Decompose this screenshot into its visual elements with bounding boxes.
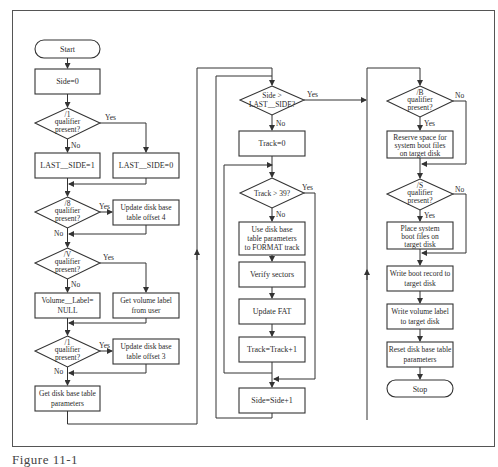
side-zero-box: Side=0 (35, 69, 100, 94)
svg-text:Get volume label: Get volume label (120, 296, 172, 305)
no-label: No (71, 141, 80, 150)
svg-text:No: No (276, 210, 285, 219)
svg-text:present?: present? (408, 196, 434, 205)
svg-text:Update disk base: Update disk base (120, 342, 172, 351)
svg-text:Update FAT: Update FAT (253, 307, 292, 316)
track-zero-box: Track=0 (239, 131, 305, 156)
last-side-1-box: LAST__SIDE=1 (35, 153, 100, 178)
svg-text:No: No (276, 119, 285, 128)
svg-text:Start: Start (60, 45, 76, 54)
svg-text:present?: present? (55, 125, 81, 134)
reset-disk-base-box: Reset disk base table parameters (387, 342, 453, 367)
get-disk-base-params-box: Get disk base table parameters (35, 386, 100, 411)
svg-text:Verify sectors: Verify sectors (250, 270, 294, 279)
svg-text:parameters: parameters (404, 355, 437, 364)
svg-text:Volume__Label=: Volume__Label= (42, 296, 94, 305)
svg-text:Yes: Yes (99, 341, 110, 350)
svg-text:Yes: Yes (99, 202, 110, 211)
svg-text:Write boot record to: Write boot record to (390, 269, 451, 278)
svg-text:Yes: Yes (424, 119, 435, 128)
svg-text:Track > 39?: Track > 39? (254, 189, 291, 198)
svg-text:Side=Side+1: Side=Side+1 (251, 396, 292, 405)
svg-text:Write volume label: Write volume label (391, 307, 449, 316)
svg-text:Yes: Yes (103, 253, 114, 262)
svg-text:Use disk base: Use disk base (251, 225, 293, 234)
side-increment-box: Side=Side+1 (239, 388, 305, 413)
svg-text:present?: present? (408, 103, 434, 112)
svg-text:Update disk base: Update disk base (120, 203, 172, 212)
reserve-space-box: Reserve space for system boot files on t… (387, 131, 453, 158)
svg-text:parameters: parameters (51, 399, 84, 408)
svg-text:to FORMAT track: to FORMAT track (245, 243, 300, 252)
decision-track-gt-39: Track > 39? (240, 178, 304, 208)
decision-qualifier-s: /S qualifier present? (387, 179, 453, 210)
svg-text:LAST__SIDE?: LAST__SIDE? (249, 100, 296, 109)
stop-terminal: Stop (387, 380, 453, 397)
decision-qualifier-b: /B qualifier present? (387, 86, 453, 117)
decision-qualifier-1-second: /1 qualifier present? (35, 336, 100, 367)
svg-text:No: No (455, 185, 464, 194)
svg-text:LAST__SIDE=0: LAST__SIDE=0 (119, 161, 173, 170)
svg-text:No: No (455, 91, 464, 100)
figure-caption: Figure 11-1 (12, 452, 78, 467)
write-boot-record-box: Write boot record to target disk (387, 266, 453, 291)
use-disk-base-format-box: Use disk base table parameters to FORMAT… (239, 222, 305, 255)
svg-text:on target disk: on target disk (400, 149, 441, 158)
svg-text:table offset 4: table offset 4 (126, 213, 165, 222)
svg-text:LAST__SIDE=1: LAST__SIDE=1 (40, 161, 94, 170)
svg-text:Get disk base table: Get disk base table (39, 389, 97, 398)
decision-qualifier-1: /1 qualifier present? (35, 108, 100, 139)
svg-text:Track=0: Track=0 (259, 139, 286, 148)
svg-text:present?: present? (55, 353, 81, 362)
verify-sectors-box: Verify sectors (239, 262, 305, 287)
svg-text:Track=Track+1: Track=Track+1 (247, 345, 297, 354)
decision-side-gt-last-side: Side > LAST__SIDE? (240, 86, 304, 115)
volume-label-null-box: Volume__Label= NULL (35, 293, 100, 318)
last-side-0-box: LAST__SIDE=0 (113, 153, 179, 178)
svg-text:Side=0: Side=0 (56, 77, 79, 86)
start-terminal: Start (35, 40, 100, 58)
update-fat-box: Update FAT (239, 299, 305, 324)
svg-text:target disk: target disk (404, 279, 436, 288)
svg-text:Stop: Stop (413, 385, 428, 394)
svg-text:Side >: Side > (262, 91, 281, 100)
svg-text:Reset disk base table: Reset disk base table (389, 345, 452, 354)
update-offset-3-box: Update disk base table offset 3 (113, 339, 179, 364)
svg-text:Yes: Yes (424, 211, 435, 220)
svg-text:present?: present? (55, 265, 81, 274)
decision-qualifier-8: /8 qualifier present? (35, 197, 100, 228)
get-volume-label-box: Get volume label from user (113, 293, 179, 318)
svg-text:target disk: target disk (404, 240, 436, 249)
svg-text:No: No (54, 229, 63, 238)
write-volume-label-box: Write volume label to target disk (387, 304, 453, 329)
flowchart: Start Side=0 /1 qualifier present? Yes N… (0, 0, 498, 467)
track-increment-box: Track=Track+1 (239, 337, 305, 362)
svg-text:to target disk: to target disk (400, 317, 439, 326)
svg-text:Yes: Yes (302, 183, 313, 192)
yes-label: Yes (105, 113, 116, 122)
svg-text:present?: present? (55, 214, 81, 223)
svg-text:from user: from user (132, 306, 161, 315)
svg-text:table parameters: table parameters (247, 234, 296, 243)
svg-text:Yes: Yes (307, 90, 318, 99)
svg-text:No: No (71, 280, 80, 289)
svg-text:No: No (54, 367, 63, 376)
decision-qualifier-v: /V qualifier present? (35, 248, 100, 279)
update-offset-4-box: Update disk base table offset 4 (113, 200, 179, 225)
svg-text:table offset 3: table offset 3 (126, 352, 165, 361)
svg-text:NULL: NULL (58, 306, 78, 315)
place-boot-files-box: Place system boot files on target disk (387, 222, 453, 249)
